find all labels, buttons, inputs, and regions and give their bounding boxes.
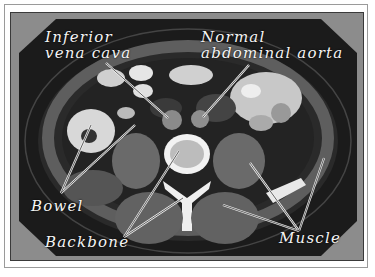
label-bowel: Bowel bbox=[31, 200, 84, 213]
label-aorta-line2: abdominal aorta bbox=[201, 47, 343, 60]
label-backbone: Backbone bbox=[45, 236, 129, 249]
inferior-vena-cava bbox=[162, 110, 182, 130]
label-aorta-line1: Normal bbox=[201, 31, 266, 44]
ct-scan-panel: Inferior vena cava Normal abdominal aort… bbox=[10, 12, 364, 261]
psoas-right bbox=[213, 133, 265, 189]
label-inferior-vena-cava-line1: Inferior bbox=[45, 31, 113, 44]
label-inferior-vena-cava-line2: vena cava bbox=[45, 47, 131, 60]
label-muscle: Muscle bbox=[279, 232, 341, 245]
